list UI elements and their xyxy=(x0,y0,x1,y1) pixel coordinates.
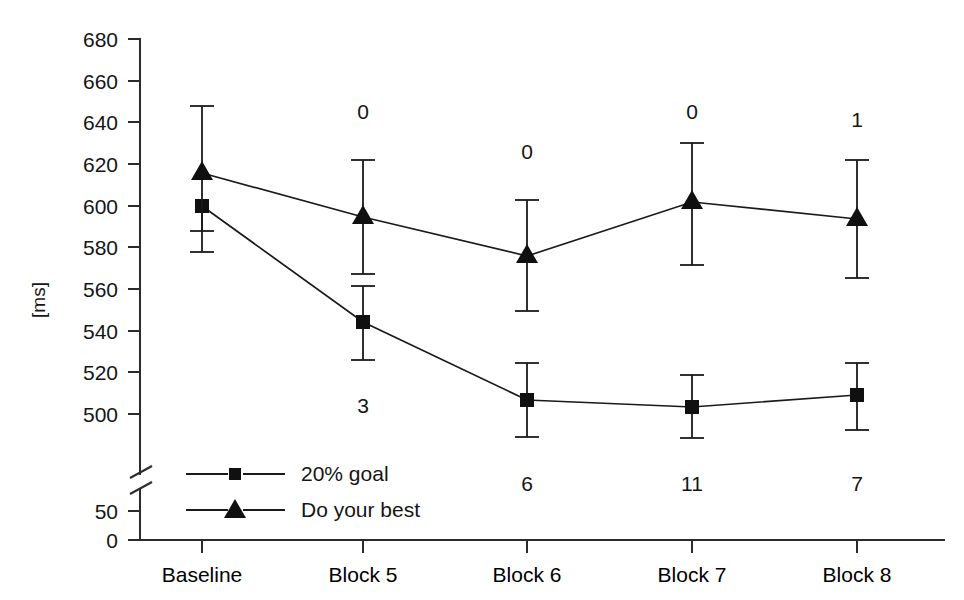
series-line-20-percent-goal xyxy=(202,206,857,407)
x-tick-labels-group: Baseline Block 5 Block 6 Block 7 Block 8 xyxy=(162,563,892,586)
y-tick-label-680: 680 xyxy=(83,28,118,51)
annotation-lower-block-8: 7 xyxy=(851,472,863,495)
annotation-lower-block-7: 11 xyxy=(681,472,703,495)
data-point-dyb-baseline[interactable] xyxy=(191,161,213,180)
data-point-20-goal-block-6[interactable] xyxy=(520,393,534,407)
data-point-20-goal-block-7[interactable] xyxy=(685,400,699,414)
y-tick-label-520: 520 xyxy=(83,361,118,384)
x-tick-label-baseline: Baseline xyxy=(162,563,243,586)
chart-legend: 20% goal Do your best xyxy=(186,462,420,521)
y-tick-label-500: 500 xyxy=(83,403,118,426)
legend-label-do-your-best: Do your best xyxy=(301,498,420,521)
annotation-lower-block-6: 6 xyxy=(521,472,533,495)
series-20-percent-goal xyxy=(190,199,869,438)
y-ticks-group xyxy=(128,39,140,540)
x-ticks-group xyxy=(202,540,857,553)
legend-label-20-percent-goal: 20% goal xyxy=(301,462,389,485)
y-tick-label-640: 640 xyxy=(83,111,118,134)
y-tick-label-560: 560 xyxy=(83,278,118,301)
annotation-upper-block-8: 1 xyxy=(851,108,863,131)
line-chart: 680 660 640 620 600 580 560 540 520 500 … xyxy=(0,0,964,600)
y-axis-title: [ms] xyxy=(28,282,49,318)
data-point-20-goal-block-5[interactable] xyxy=(356,315,370,329)
annotation-lower-block-5: 3 xyxy=(357,394,369,417)
series-do-your-best xyxy=(190,106,869,311)
y-tick-label-660: 660 xyxy=(83,70,118,93)
y-tick-label-50: 50 xyxy=(95,500,118,523)
y-tick-label-0: 0 xyxy=(106,529,118,552)
annotation-upper-block-6: 0 xyxy=(521,140,533,163)
legend-item-do-your-best[interactable]: Do your best xyxy=(186,498,420,521)
x-tick-label-block-5: Block 5 xyxy=(329,563,398,586)
triangle-marker-icon xyxy=(224,499,246,518)
axes-group xyxy=(128,39,944,540)
upper-annotations-group: 0 0 0 1 xyxy=(357,100,863,163)
data-point-20-goal-block-8[interactable] xyxy=(850,388,864,402)
annotation-upper-block-7: 0 xyxy=(686,100,698,123)
lower-annotations-group: 3 6 11 7 xyxy=(357,394,863,495)
x-tick-label-block-6: Block 6 xyxy=(493,563,562,586)
square-marker-icon xyxy=(229,468,241,480)
x-tick-label-block-8: Block 8 xyxy=(823,563,892,586)
series-line-do-your-best xyxy=(202,173,857,256)
y-tick-label-600: 600 xyxy=(83,195,118,218)
chart-container: 680 660 640 620 600 580 560 540 520 500 … xyxy=(0,0,964,600)
error-bars-do-your-best xyxy=(190,106,869,311)
y-tick-label-620: 620 xyxy=(83,153,118,176)
data-point-dyb-block-8[interactable] xyxy=(846,207,868,226)
y-tick-label-540: 540 xyxy=(83,320,118,343)
x-tick-label-block-7: Block 7 xyxy=(658,563,727,586)
legend-item-20-percent-goal[interactable]: 20% goal xyxy=(186,462,389,485)
data-point-dyb-block-7[interactable] xyxy=(681,190,703,209)
y-tick-labels-group: 680 660 640 620 600 580 560 540 520 500 … xyxy=(83,28,118,552)
y-tick-label-580: 580 xyxy=(83,236,118,259)
annotation-upper-block-5: 0 xyxy=(357,100,369,123)
